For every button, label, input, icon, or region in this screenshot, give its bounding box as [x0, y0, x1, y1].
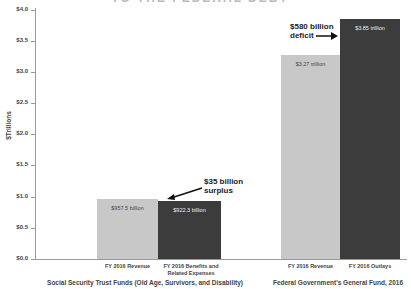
bar-value-label: $3.27 trillion	[281, 61, 340, 67]
y-tick-label: $1.5	[2, 161, 28, 167]
group-label-social-security: Social Security Trust Funds (Old Age, Su…	[40, 279, 250, 286]
y-tick-label: $0.5	[2, 224, 28, 230]
y-tick-label: $2.5	[2, 99, 28, 105]
y-tick-label: $3.0	[2, 68, 28, 74]
deficit-arrow-icon	[316, 31, 340, 41]
y-tick-label: $4.0	[2, 6, 28, 12]
y-tick-label: $0.0	[2, 255, 28, 261]
y-axis-label: $Trillions	[5, 108, 12, 144]
y-tick	[31, 259, 35, 260]
chart-title-partial: TO THE FEDERAL DEBT	[100, 0, 300, 3]
bar-gf-outlays: $3.85 trillion	[340, 19, 400, 259]
category-label: FY 2016 Benefits and Related Expenses	[156, 263, 226, 277]
y-tick	[31, 103, 35, 104]
y-tick	[31, 165, 35, 166]
deficit-line1: $580 billion	[290, 22, 334, 31]
category-label: FY 2016 Revenue	[97, 263, 158, 270]
category-label: FY 2016 Revenue	[281, 263, 340, 270]
y-tick-label: $3.5	[2, 37, 28, 43]
bar-ss-benefits: $922.3 billion	[158, 201, 221, 259]
y-tick	[31, 228, 35, 229]
y-tick	[31, 134, 35, 135]
y-axis-line	[35, 8, 36, 259]
y-tick	[31, 41, 35, 42]
category-label: FY 2016 Outlays	[340, 263, 400, 270]
y-tick	[31, 197, 35, 198]
group-label-general-fund: Federal Government's General Fund, 2016	[268, 279, 408, 286]
surplus-line1: $35 billion	[204, 177, 243, 186]
y-tick-label: $1.0	[2, 193, 28, 199]
bar-ss-revenue: $957.5 billion	[97, 199, 158, 259]
category-label-line2: Related Expenses	[156, 270, 226, 277]
bar-gf-revenue: $3.27 trillion	[281, 55, 340, 259]
category-label-line1: FY 2016 Benefits and	[156, 263, 226, 270]
surplus-annotation: $35 billion surplus	[204, 177, 243, 195]
surplus-line2: surplus	[204, 186, 243, 195]
bar-value-label: $3.85 trillion	[340, 25, 400, 31]
y-tick	[31, 72, 35, 73]
bar-value-label: $922.3 billion	[158, 207, 221, 213]
surplus-arrow-icon	[165, 185, 205, 201]
bar-value-label: $957.5 billion	[97, 205, 158, 211]
y-tick	[31, 10, 35, 11]
x-axis-line	[35, 259, 407, 260]
